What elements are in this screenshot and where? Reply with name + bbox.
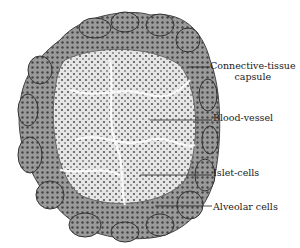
label-blood-vessel: Blood-vessel [213,112,273,123]
lobule [28,56,52,84]
label-islet-cells: Islet-cells [213,167,259,178]
islet-region [53,49,195,203]
label-connective-tissue-capsule: Connective-tissue capsule [210,60,296,82]
lobule [146,14,174,36]
histology-figure: Connective-tissue capsule Blood-vessel I… [0,0,300,248]
lobule [36,181,64,209]
lobule [177,191,203,219]
lobule [69,213,101,237]
label-capsule-line1: Connective-tissue [210,60,296,71]
lobule [18,137,42,173]
lobule [199,79,217,111]
lobule [18,94,38,126]
lobule [79,18,111,38]
lobule [146,214,174,236]
lobule [202,126,218,154]
lobule [111,12,139,32]
lobule [176,28,200,52]
label-alveolar-cells: Alveolar cells [213,201,278,212]
label-capsule-line2: capsule [210,71,296,82]
lobule [111,222,139,242]
